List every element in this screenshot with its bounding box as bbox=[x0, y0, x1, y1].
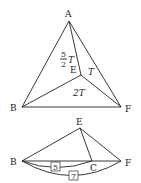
area-ABE-numerator: 5 bbox=[61, 50, 66, 59]
label-B: B bbox=[10, 157, 17, 167]
top-figure: A B F E 5 2 T T 2T bbox=[10, 9, 131, 114]
bottom-figure: E B C F 5 7 bbox=[10, 117, 131, 181]
label-E: E bbox=[70, 65, 77, 75]
label-A: A bbox=[64, 9, 72, 19]
label-F: F bbox=[125, 104, 131, 114]
length-BF: 7 bbox=[71, 172, 76, 181]
area-BEF: 2T bbox=[72, 88, 86, 98]
area-ABE-variable: T bbox=[68, 55, 75, 65]
label-E: E bbox=[76, 117, 83, 127]
length-BC: 5 bbox=[53, 163, 58, 172]
edge-BE bbox=[22, 128, 80, 161]
label-C: C bbox=[90, 163, 97, 173]
label-F: F bbox=[125, 158, 131, 168]
label-B: B bbox=[10, 103, 17, 113]
geometry-diagram: A B F E 5 2 T T 2T E B C F 5 7 bbox=[0, 0, 141, 183]
area-AEF: T bbox=[88, 67, 95, 77]
edge-EF bbox=[81, 75, 121, 107]
area-ABE-denominator: 2 bbox=[61, 60, 66, 69]
